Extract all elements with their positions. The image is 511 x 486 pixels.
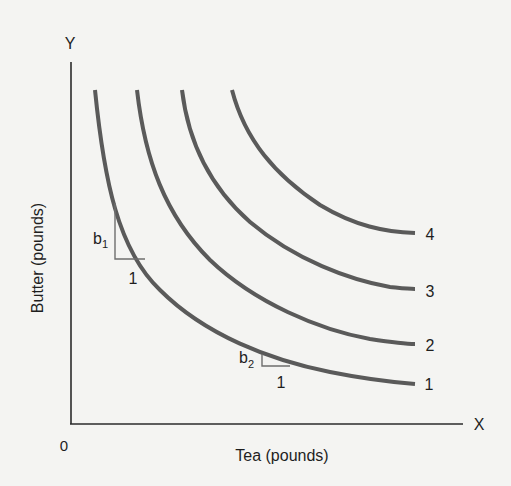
- indifference-curve-4: [232, 90, 415, 233]
- y-axis-title: Butter (pounds): [29, 203, 46, 313]
- b1-label: b1: [93, 230, 108, 250]
- origin-label: 0: [60, 437, 68, 454]
- x-axis-name: X: [474, 416, 485, 433]
- b2-subscript: 2: [248, 358, 254, 370]
- x-axis-title: Tea (pounds): [235, 447, 328, 464]
- b2-label: b2: [239, 349, 254, 370]
- y-axis-name: Y: [65, 35, 76, 52]
- curve-label-2: 2: [426, 337, 435, 354]
- b2-run-label: 1: [277, 374, 286, 391]
- curve-label-4: 4: [426, 226, 435, 243]
- b1-subscript: 1: [102, 238, 108, 250]
- indifference-curve-diagram: Y X 0 Tea (pounds) Butter (pounds) 4 3 2…: [0, 0, 511, 486]
- curve-label-1: 1: [425, 376, 434, 393]
- curve-label-3: 3: [426, 283, 435, 300]
- b1-run-label: 1: [129, 270, 138, 287]
